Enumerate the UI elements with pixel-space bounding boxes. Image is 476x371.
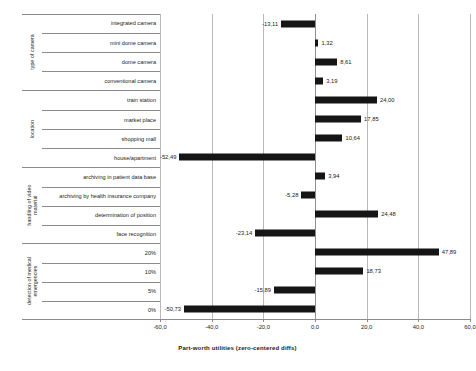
group-row-labels: archiving in patient data basearchiving … [42, 168, 160, 243]
category-row-label: mini dome camera [42, 33, 160, 52]
category-row-label: house/apartment [42, 148, 160, 167]
bar-row: 1,32 [160, 33, 470, 52]
bar-value-label: 17,85 [364, 115, 379, 122]
x-axis-ticks: -60,0-40,0-20,00,020,040,060,0 [160, 319, 470, 333]
group-row-labels: 20%10%5%0% [42, 244, 160, 319]
bar-row: 47,89 [160, 243, 470, 262]
bar-value-label: -52,49 [160, 153, 176, 160]
x-axis-tick [470, 319, 471, 322]
x-axis-tick-label: 60,0 [464, 323, 475, 331]
category-group: detection of medicalemergencies20%10%5%0… [22, 243, 160, 319]
bar-value-label: -5,28 [285, 192, 298, 199]
category-row-label: 0% [42, 301, 160, 320]
category-row-label: face recognition [42, 225, 160, 244]
group-title-text: location [29, 120, 35, 139]
bar [315, 268, 363, 275]
category-row-label: train station [42, 91, 160, 110]
group-title-location: location [22, 91, 42, 166]
bar-value-label: 24,00 [380, 96, 395, 103]
x-axis-tick-label: -20,0 [257, 323, 270, 331]
x-axis-tick-label: -40,0 [205, 323, 218, 331]
bar-value-label: 3,94 [328, 173, 339, 180]
x-axis-tick [160, 319, 161, 322]
bar-value-label: -13,11 [262, 20, 278, 27]
category-row-label: 10% [42, 263, 160, 282]
x-axis-tick-label: 40,0 [413, 323, 424, 331]
group-title-text: detection of medicalemergencies [26, 257, 38, 305]
group-title-type-of-camera: type of camera [22, 14, 42, 90]
category-row-label: 20% [42, 244, 160, 263]
category-row-label: determination of position [42, 206, 160, 225]
bar-row: 3,19 [160, 71, 470, 90]
bar-value-label: 1,32 [321, 39, 332, 46]
bar [255, 230, 315, 237]
bar-value-label: -23,14 [236, 230, 252, 237]
x-axis-tick-label: -60,0 [153, 323, 166, 331]
bar-row: 24,00 [160, 90, 470, 109]
x-axis-tick [263, 319, 264, 322]
group-title-text: handling of videomaterial [26, 185, 38, 226]
bar [315, 134, 342, 141]
bar-value-label: 18,73 [366, 268, 381, 275]
bar [315, 77, 323, 84]
bar-row: -52,49 [160, 147, 470, 166]
category-row-label: shopping mall [42, 129, 160, 148]
category-row-label: market place [42, 110, 160, 129]
category-row-label: archiving in patient data base [42, 168, 160, 187]
bar-row: 3,94 [160, 167, 470, 186]
bar-row: -13,11 [160, 14, 470, 33]
bar [274, 287, 315, 294]
category-label-column: type of cameraintegrated cameramini dome… [22, 14, 160, 319]
bar-row: -5,28 [160, 186, 470, 205]
group-row-labels: integrated cameramini dome cameradome ca… [42, 14, 160, 90]
category-group: type of cameraintegrated cameramini dome… [22, 14, 160, 90]
bar-value-label: 8,61 [340, 58, 351, 65]
x-axis-tick [315, 319, 316, 322]
group-title-detection-of-medical-emergencies: detection of medicalemergencies [22, 244, 42, 319]
bar [315, 39, 318, 46]
bar-row: 18,73 [160, 262, 470, 281]
category-row-label: integrated camera [42, 14, 160, 33]
x-axis-tick [367, 319, 368, 322]
bar [315, 249, 439, 256]
bar-row: 17,85 [160, 109, 470, 128]
bars-plot-area: -13,111,328,613,1924,0017,8510,64-52,493… [160, 14, 470, 319]
group-row-labels: train stationmarket placeshopping mallho… [42, 91, 160, 166]
category-group: handling of videomaterialarchiving in pa… [22, 167, 160, 243]
bar-row: 10,64 [160, 128, 470, 147]
category-group: locationtrain stationmarket placeshoppin… [22, 90, 160, 166]
bar [315, 58, 337, 65]
bar-row: 24,48 [160, 205, 470, 224]
bar [301, 192, 315, 199]
category-row-label: conventional camera [42, 71, 160, 90]
bar [184, 306, 315, 313]
bar-row: -15,89 [160, 281, 470, 300]
bar-value-label: 47,89 [442, 249, 457, 256]
gridline [470, 14, 471, 319]
category-row-label: dome camera [42, 52, 160, 71]
bar [315, 211, 378, 218]
x-axis-tick-label: 20,0 [361, 323, 372, 331]
category-row-label: 5% [42, 282, 160, 301]
bar-value-label: 3,19 [326, 77, 337, 84]
bar [315, 115, 361, 122]
x-axis-tick [212, 319, 213, 322]
bar [315, 96, 377, 103]
bar-value-label: -15,89 [255, 287, 271, 294]
bar-row: 8,61 [160, 52, 470, 71]
x-axis-tick [418, 319, 419, 322]
bar [281, 20, 315, 27]
bar [179, 153, 315, 160]
chart-plot-frame: type of cameraintegrated cameramini dome… [22, 14, 470, 319]
group-title-handling-of-video-material: handling of videomaterial [22, 168, 42, 243]
bar [315, 173, 325, 180]
bar-row: -23,14 [160, 224, 470, 243]
category-row-label: archiving by health insurance company [42, 187, 160, 206]
group-title-text: type of camera [29, 34, 35, 70]
bar-row: -50,73 [160, 300, 470, 319]
x-axis-title: Part-worth utilities (zero-centered diff… [0, 345, 475, 351]
bar-value-label: -50,73 [165, 306, 181, 313]
bar-value-label: 24,48 [381, 211, 396, 218]
x-axis-tick-label: 0,0 [311, 323, 319, 331]
